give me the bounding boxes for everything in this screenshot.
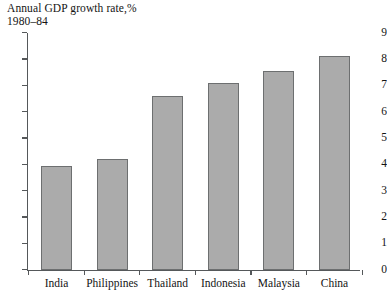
y-axis-tick-label: 6: [367, 106, 387, 118]
y-axis-tick-label: 5: [367, 132, 387, 144]
x-axis-tick: [250, 270, 251, 275]
plot-area: 0123456789 IndiaPhilippinesThailandIndon…: [0, 0, 387, 300]
y-axis-tick: [22, 58, 27, 59]
y-axis-tick: [22, 269, 27, 270]
x-axis-tick: [362, 270, 363, 275]
bar: [263, 71, 294, 270]
x-axis-tick: [306, 270, 307, 275]
y-axis-tick-label: 2: [367, 211, 387, 223]
x-axis-tick: [139, 270, 140, 275]
y-axis-tick: [22, 243, 27, 244]
y-axis-tick: [22, 85, 27, 86]
y-axis-tick: [22, 216, 27, 217]
y-axis-tick: [22, 137, 27, 138]
y-axis-tick-label: 9: [367, 27, 387, 39]
gdp-growth-bar-chart: Annual GDP growth rate,% 1980–84 0123456…: [0, 0, 387, 300]
y-axis-tick-label: 8: [367, 53, 387, 65]
y-axis-line: [27, 33, 28, 271]
y-axis-tick-label: 4: [367, 158, 387, 170]
y-axis-tick: [22, 164, 27, 165]
y-axis-tick-label: 1: [367, 237, 387, 249]
x-axis-category-label: China: [290, 277, 380, 290]
x-axis-tick: [84, 270, 85, 275]
bar: [41, 166, 72, 270]
bar: [319, 56, 350, 269]
bar: [208, 83, 239, 270]
y-axis-tick: [22, 111, 27, 112]
x-axis-tick: [195, 270, 196, 275]
y-axis-tick-label: 7: [367, 79, 387, 91]
bar: [97, 159, 128, 270]
bar: [152, 96, 183, 270]
x-axis-tick: [28, 270, 29, 275]
x-axis-line: [27, 270, 360, 271]
y-axis-tick-label: 0: [367, 264, 387, 276]
y-axis-tick: [22, 190, 27, 191]
y-axis-tick-label: 3: [367, 185, 387, 197]
y-axis-tick: [22, 32, 27, 33]
